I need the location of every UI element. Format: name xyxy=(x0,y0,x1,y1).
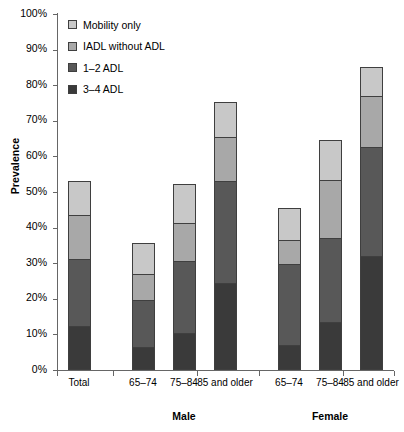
x-axis-category-label: 85 and older xyxy=(336,377,404,389)
legend-swatch xyxy=(68,85,77,94)
bar-segment xyxy=(173,333,196,370)
bar-stack xyxy=(278,208,301,371)
bar-stack xyxy=(319,140,342,370)
legend-label: IADL without ADL xyxy=(83,40,165,52)
legend-item: 1–2 ADL xyxy=(68,57,165,79)
legend-item: Mobility only xyxy=(68,14,165,36)
legend-swatch xyxy=(68,42,77,51)
bar-segment xyxy=(214,137,237,182)
x-axis-group-label: Female xyxy=(270,410,390,422)
bar-segment xyxy=(278,345,301,370)
bar-segment xyxy=(132,243,155,275)
bar-segment xyxy=(360,96,383,148)
bar-segment xyxy=(173,184,196,223)
y-axis-title: Prevalence xyxy=(9,106,21,226)
bar-segment xyxy=(132,300,155,348)
legend-label: Mobility only xyxy=(83,19,141,31)
legend-label: 3–4 ADL xyxy=(83,83,123,95)
bar-stack xyxy=(360,67,383,370)
x-axis-separator-tick xyxy=(113,371,114,376)
bar-segment xyxy=(319,180,342,239)
legend-swatch xyxy=(68,63,77,72)
y-axis-tick-label: 0% xyxy=(32,363,47,375)
y-axis-tick-label: 30% xyxy=(26,256,47,268)
y-axis-tick-label: 40% xyxy=(26,220,47,232)
bar-segment xyxy=(278,208,301,242)
y-axis-tick-label: 90% xyxy=(26,42,47,54)
bar-segment xyxy=(319,322,342,370)
bar-stack xyxy=(214,102,237,370)
bar-segment xyxy=(68,215,91,260)
chart-legend: Mobility onlyIADL without ADL1–2 ADL3–4 … xyxy=(68,14,165,100)
legend-item: 3–4 ADL xyxy=(68,79,165,101)
bar-segment xyxy=(132,347,155,370)
bar-segment xyxy=(360,147,383,257)
x-axis-separator-tick xyxy=(57,371,58,376)
bar-segment xyxy=(214,102,237,138)
bar-segment xyxy=(214,283,237,370)
x-axis-category-label: 85 and older xyxy=(190,377,260,389)
bar-segment xyxy=(173,223,196,262)
bar-segment xyxy=(173,261,196,334)
bar-segment xyxy=(319,140,342,181)
bar-stack xyxy=(68,181,91,370)
bar-segment xyxy=(214,181,237,284)
y-axis-tick-label: 80% xyxy=(26,78,47,90)
x-axis-group-label: Male xyxy=(124,410,244,422)
bar-segment xyxy=(278,264,301,346)
bar-segment xyxy=(319,238,342,323)
x-axis-separator-tick xyxy=(394,371,395,376)
y-axis-tick-label: 50% xyxy=(26,185,47,197)
y-axis-tick-label: 20% xyxy=(26,291,47,303)
x-axis-category-label: Total xyxy=(44,377,114,389)
bar-segment xyxy=(68,326,91,371)
bar-segment xyxy=(360,67,383,97)
y-axis-tick-label: 60% xyxy=(26,149,47,161)
y-axis-tick-label: 100% xyxy=(20,7,47,19)
legend-swatch xyxy=(68,20,77,29)
bar-stack xyxy=(173,184,196,370)
y-axis-tick-label: 10% xyxy=(26,327,47,339)
y-axis-tick-label: 70% xyxy=(26,113,47,125)
x-axis-separator-tick xyxy=(197,371,198,376)
bar-segment xyxy=(360,256,383,370)
legend-label: 1–2 ADL xyxy=(83,62,123,74)
legend-item: IADL without ADL xyxy=(68,36,165,58)
bar-stack xyxy=(132,243,155,370)
bar-segment xyxy=(68,181,91,217)
bar-segment xyxy=(68,259,91,327)
x-axis-separator-tick xyxy=(259,371,260,376)
x-axis-separator-tick xyxy=(343,371,344,376)
bar-segment xyxy=(132,274,155,301)
bar-segment xyxy=(278,240,301,265)
